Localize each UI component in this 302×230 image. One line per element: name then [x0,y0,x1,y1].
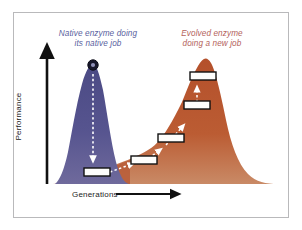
step-box-5 [190,72,216,80]
step-box-1 [84,168,110,176]
step-box-4 [184,101,210,109]
step-box-2 [131,156,157,164]
y-axis-label: Performance [14,82,23,152]
x-axis-label: Generations [72,190,118,199]
step-box-3 [158,134,184,142]
native-peak-marker-center [91,63,95,67]
native-enzyme-annotation: Native enzyme doing its native job [48,29,148,49]
evolved-enzyme-annotation: Evolved enzyme doing a new job [162,29,262,49]
figure-root: Native enzyme doing its native job Evolv… [0,0,302,230]
